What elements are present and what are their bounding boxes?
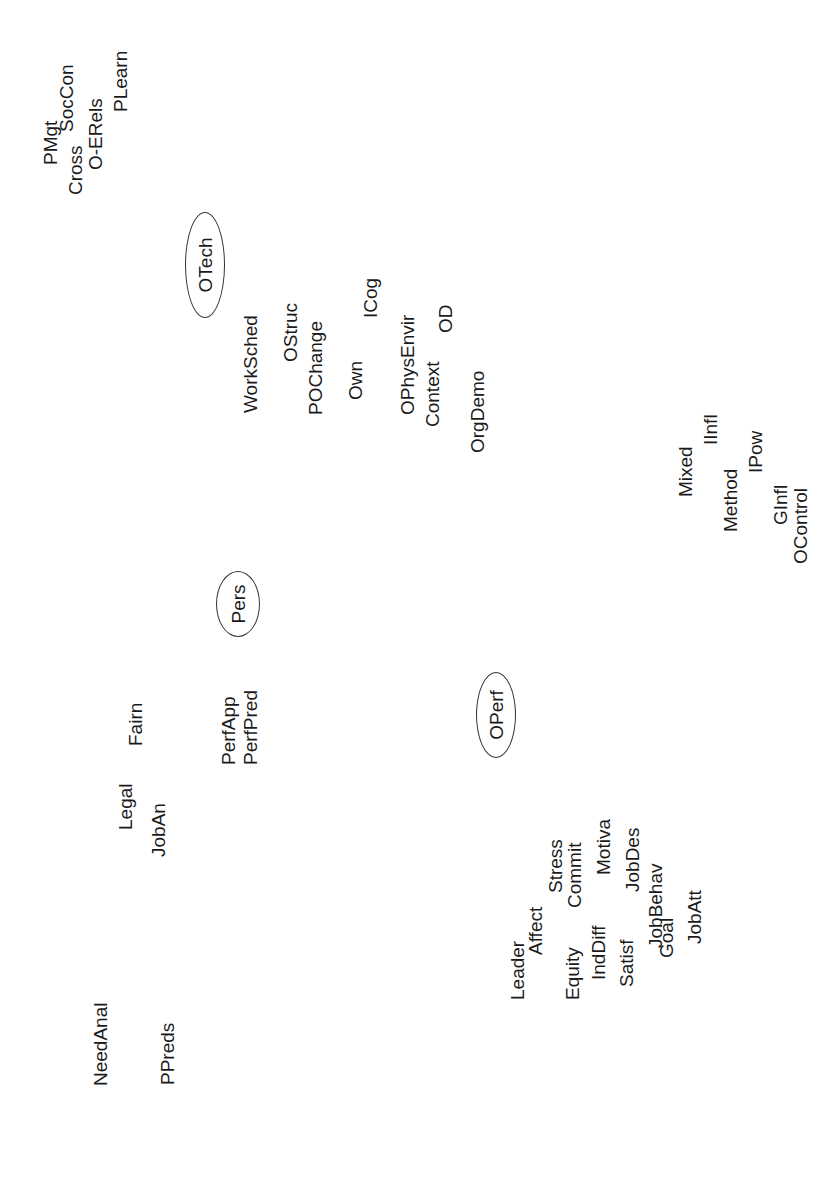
concept-label-leader: Leader [508, 941, 527, 1000]
concept-label-o-erels: O-ERels [86, 98, 105, 170]
cluster-node-otech: OTech [185, 212, 225, 318]
concept-label-commit: Commit [565, 843, 584, 908]
concept-label-worksched: WorkSched [241, 315, 260, 413]
concept-label-orgdemo: OrgDemo [468, 371, 487, 453]
cluster-node-label: OPerf [487, 690, 506, 740]
concept-label-equity: Equity [563, 947, 582, 1000]
concept-label-cross: Cross [66, 145, 85, 195]
concept-label-needanal: NeedAnal [91, 1003, 110, 1086]
concept-label-affect: Affect [526, 907, 545, 955]
concept-label-context: Context [423, 362, 442, 427]
concept-label-soccon: SocCon [57, 64, 76, 132]
concept-map-canvas: OTechPersOPerfPMgtCrossSocConO-ERelsPLea… [0, 0, 839, 1184]
concept-label-ppreds: PPreds [158, 1023, 177, 1085]
concept-label-legal: Legal [116, 784, 135, 831]
concept-label-perfpred: PerfPred [241, 690, 260, 765]
concept-label-ophysenvir: OPhysEnvir [398, 315, 417, 415]
cluster-node-label: OTech [196, 238, 215, 293]
concept-label-satisf: Satisf [617, 939, 636, 987]
concept-label-motiva: Motiva [594, 819, 613, 875]
concept-label-ginfl: GInfl [771, 485, 790, 525]
concept-label-joban: JobAn [149, 803, 168, 857]
concept-label-jobatt: JobAtt [685, 890, 704, 944]
concept-label-perfapp: PerfApp [219, 696, 238, 765]
cluster-node-operf: OPerf [476, 672, 516, 758]
concept-label-mixed: Mixed [676, 446, 695, 497]
concept-label-ocontrol: OControl [791, 488, 810, 564]
concept-label-od: OD [436, 305, 455, 334]
concept-label-ostruc: OStruc [281, 303, 300, 362]
concept-label-pochange: POChange [306, 321, 325, 415]
cluster-node-pers: Pers [216, 571, 260, 637]
concept-label-jobdes: JobDes [623, 828, 642, 892]
concept-label-stress: Stress [546, 839, 565, 893]
concept-label-inddiff: IndDiff [589, 925, 608, 980]
concept-label-plearn: PLearn [111, 51, 130, 112]
concept-label-goal: Goal [657, 918, 676, 958]
concept-label-icog: ICog [361, 278, 380, 318]
concept-label-ipow: IPow [746, 431, 765, 473]
concept-label-method: Method [721, 469, 740, 532]
cluster-node-label: Pers [229, 584, 248, 623]
concept-label-fairn: Fairn [126, 703, 145, 746]
concept-label-own: Own [346, 361, 365, 400]
concept-label-iinfl: IInfl [701, 414, 720, 445]
